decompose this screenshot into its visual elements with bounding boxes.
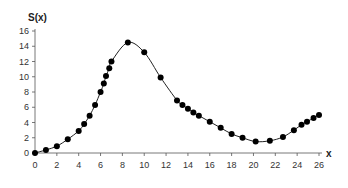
data-point bbox=[32, 150, 38, 156]
data-point bbox=[125, 39, 131, 45]
y-tick-label: 16 bbox=[19, 26, 29, 36]
data-point bbox=[87, 113, 93, 119]
y-tick-label: 10 bbox=[19, 72, 29, 82]
y-tick-label: 6 bbox=[24, 102, 29, 112]
data-point bbox=[54, 143, 60, 149]
data-point bbox=[141, 49, 147, 55]
x-tick-label: 16 bbox=[205, 160, 215, 170]
axes: 024681012141602468101214161820222426 bbox=[19, 26, 324, 170]
data-point bbox=[103, 73, 109, 79]
y-axis-label: S(x) bbox=[28, 12, 47, 23]
y-tick-label: 12 bbox=[19, 57, 29, 67]
data-point bbox=[158, 75, 164, 81]
x-tick-label: 4 bbox=[76, 160, 81, 170]
chart: S(x) x 024681012141602468101214161820222… bbox=[0, 0, 348, 188]
data-point bbox=[316, 112, 322, 118]
data-point bbox=[299, 122, 305, 128]
y-tick-label: 2 bbox=[24, 133, 29, 143]
data-point bbox=[240, 135, 246, 141]
data-point bbox=[76, 128, 82, 134]
data-point bbox=[196, 113, 202, 119]
x-tick-label: 8 bbox=[120, 160, 125, 170]
data-point bbox=[280, 134, 286, 140]
x-tick-label: 22 bbox=[270, 160, 280, 170]
x-tick-label: 26 bbox=[314, 160, 324, 170]
data-point bbox=[229, 131, 235, 137]
data-point bbox=[190, 110, 196, 116]
data-series bbox=[32, 39, 322, 156]
x-tick-label: 2 bbox=[54, 160, 59, 170]
x-tick-label: 6 bbox=[98, 160, 103, 170]
y-tick-label: 4 bbox=[24, 118, 29, 128]
y-tick-label: 0 bbox=[24, 148, 29, 158]
data-point bbox=[174, 97, 180, 103]
y-tick-label: 14 bbox=[19, 41, 29, 51]
data-point bbox=[43, 147, 49, 153]
data-point bbox=[291, 127, 297, 133]
x-tick-label: 12 bbox=[161, 160, 171, 170]
data-point bbox=[108, 59, 114, 65]
data-point bbox=[311, 115, 317, 121]
data-point bbox=[304, 119, 310, 125]
data-point bbox=[65, 136, 71, 142]
x-tick-label: 18 bbox=[227, 160, 237, 170]
x-tick-label: 24 bbox=[292, 160, 302, 170]
data-point bbox=[81, 121, 87, 127]
data-point bbox=[267, 138, 273, 144]
data-point bbox=[179, 102, 185, 108]
y-tick-label: 8 bbox=[24, 87, 29, 97]
x-tick-label: 20 bbox=[248, 160, 258, 170]
x-tick-label: 0 bbox=[32, 160, 37, 170]
x-tick-label: 14 bbox=[183, 160, 193, 170]
data-point bbox=[106, 65, 112, 71]
data-point bbox=[101, 81, 107, 87]
data-point bbox=[207, 119, 213, 125]
data-point bbox=[92, 102, 98, 108]
data-point bbox=[218, 125, 224, 131]
data-point bbox=[98, 89, 104, 95]
data-point bbox=[185, 106, 191, 112]
x-axis-label: x bbox=[326, 148, 332, 159]
x-tick-label: 10 bbox=[139, 160, 149, 170]
data-point bbox=[253, 139, 259, 145]
